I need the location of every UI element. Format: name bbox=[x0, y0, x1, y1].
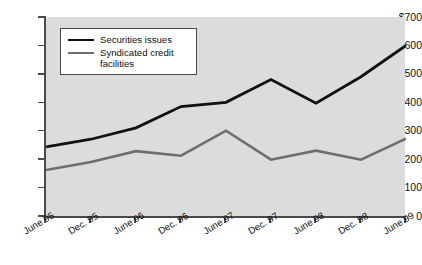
legend-item-securities-issues: Securities issues bbox=[68, 34, 190, 45]
line-chart-figure: 0100200300400500600$700 June 95Dec. 95Ju… bbox=[0, 0, 422, 265]
legend-item-syndicated-credit-facilities: Syndicated credit facilities bbox=[68, 47, 190, 69]
chart-legend: Securities issues Syndicated credit faci… bbox=[60, 28, 197, 75]
y-axis-line bbox=[44, 16, 46, 217]
legend-swatch-syndicated-credit-facilities bbox=[68, 52, 94, 54]
legend-label-syndicated-credit-facilities: Syndicated credit facilities bbox=[100, 47, 190, 69]
legend-swatch-securities-issues bbox=[68, 39, 94, 41]
legend-label-securities-issues: Securities issues bbox=[100, 34, 172, 45]
x-axis-tick-label: June 95 bbox=[21, 209, 56, 236]
